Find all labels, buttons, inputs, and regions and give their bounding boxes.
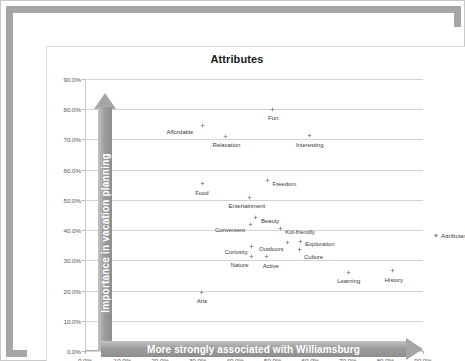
y-tick-label: 60.0% xyxy=(63,166,81,173)
diamond-marker-icon xyxy=(297,247,302,252)
data-point-label: Entertainment xyxy=(228,203,265,209)
diamond-marker-icon xyxy=(285,240,290,245)
gridline xyxy=(85,321,423,322)
diamond-marker-icon xyxy=(200,123,205,128)
chart-title: Attributes xyxy=(47,53,427,65)
y-tick-mark xyxy=(82,109,85,110)
x-tick-mark xyxy=(85,351,86,354)
diamond-marker-icon xyxy=(253,215,258,220)
x-axis-arrow-label: More strongly associated with Williamsbu… xyxy=(101,338,406,360)
legend-label: Attributes xyxy=(441,232,465,239)
y-axis-line xyxy=(85,79,86,351)
data-point-label: Active xyxy=(263,263,279,269)
y-tick-mark xyxy=(82,139,85,140)
y-tick-mark xyxy=(82,321,85,322)
data-point-label: Beauty xyxy=(261,218,279,224)
data-point-label: Freedom xyxy=(273,181,297,187)
gridline xyxy=(85,139,423,140)
data-point-label: Fun xyxy=(268,115,278,121)
y-tick-label: 20.0% xyxy=(63,287,81,294)
diamond-marker-icon xyxy=(390,268,395,273)
data-point-label: Food xyxy=(195,190,208,196)
y-tick-mark xyxy=(82,79,85,80)
y-tick-label: 0.0% xyxy=(67,348,81,355)
arrow-right-icon xyxy=(406,338,423,360)
diamond-marker-icon xyxy=(248,222,253,227)
diamond-marker-icon xyxy=(278,226,283,231)
diamond-marker-icon xyxy=(199,290,204,295)
diamond-marker-icon xyxy=(247,195,252,200)
data-point-label: Convenient xyxy=(215,227,245,233)
diamond-marker-icon xyxy=(223,134,228,139)
frame-border-band: Attributes 0.0%10.0%20.0%30.0%40.0%50.0%… xyxy=(6,6,461,357)
data-point-label: Relaxation xyxy=(212,142,240,148)
gridline xyxy=(85,260,423,261)
y-tick-mark xyxy=(82,260,85,261)
x-axis-arrow: More strongly associated with Williamsbu… xyxy=(101,338,423,360)
y-tick-mark xyxy=(82,291,85,292)
gridline xyxy=(85,291,423,292)
y-tick-mark xyxy=(82,230,85,231)
diamond-marker-icon xyxy=(249,244,254,249)
y-tick-label: 90.0% xyxy=(63,76,81,83)
y-tick-label: 30.0% xyxy=(63,257,81,264)
data-point-label: Arts xyxy=(197,298,207,304)
diamond-marker-icon xyxy=(298,239,303,244)
y-tick-mark xyxy=(82,170,85,171)
gridline xyxy=(85,109,423,110)
data-point-label: Outdoors xyxy=(259,246,283,252)
diamond-marker-icon xyxy=(265,178,270,183)
diamond-marker-icon xyxy=(264,254,269,259)
diamond-marker-icon xyxy=(307,133,312,138)
y-tick-label: 70.0% xyxy=(63,136,81,143)
data-point-label: Curiosity xyxy=(225,249,248,255)
chart-container: Attributes 0.0%10.0%20.0%30.0%40.0%50.0%… xyxy=(46,46,465,361)
y-axis-arrow xyxy=(94,93,116,351)
y-tick-mark xyxy=(82,200,85,201)
gridline xyxy=(85,170,423,171)
y-tick-label: 80.0% xyxy=(63,106,81,113)
diamond-marker-icon xyxy=(200,181,205,186)
diamond-marker-icon xyxy=(249,254,254,259)
y-tick-label: 10.0% xyxy=(63,317,81,324)
data-point-label: Exploration xyxy=(305,241,334,247)
x-tick-mark xyxy=(423,351,424,354)
data-point-label: Interesting xyxy=(296,142,323,148)
frame-inner-mat: Attributes 0.0%10.0%20.0%30.0%40.0%50.0%… xyxy=(27,27,464,360)
x-tick-label: 0.0% xyxy=(78,357,92,361)
data-point-label: Learning xyxy=(337,278,360,284)
gridline xyxy=(85,79,423,80)
data-point-label: History xyxy=(385,277,403,283)
y-tick-label: 50.0% xyxy=(63,196,81,203)
arrow-shaft xyxy=(98,107,112,351)
legend: ✦ Attributes xyxy=(433,232,465,239)
data-point-label: Culture xyxy=(304,254,323,260)
data-point-label: Affordable xyxy=(167,129,194,135)
data-point-label: Kid-friendly xyxy=(285,229,314,235)
diamond-marker-icon xyxy=(270,107,275,112)
y-tick-label: 40.0% xyxy=(63,227,81,234)
legend-diamond-icon: ✦ xyxy=(433,232,439,239)
data-point-label: Nature xyxy=(231,262,249,268)
diamond-marker-icon xyxy=(346,270,351,275)
gridline xyxy=(85,230,423,231)
picture-frame: Attributes 0.0%10.0%20.0%30.0%40.0%50.0%… xyxy=(0,0,465,361)
gridline xyxy=(85,200,423,201)
plot-area: 0.0%10.0%20.0%30.0%40.0%50.0%60.0%70.0%8… xyxy=(85,79,423,351)
